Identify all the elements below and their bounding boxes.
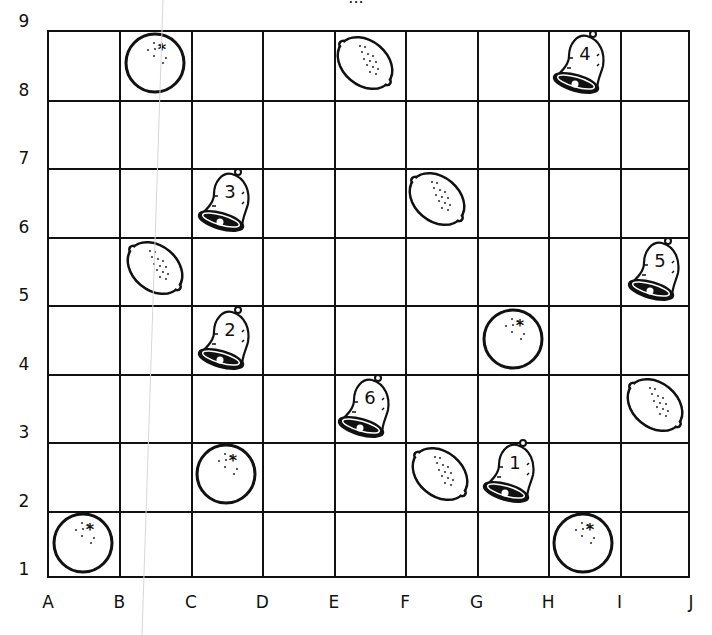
svg-text:*: * xyxy=(229,451,238,470)
bell-4: 4 xyxy=(547,30,613,96)
y-axis-label-4: 4 xyxy=(14,354,34,374)
y-axis-label-1: 1 xyxy=(14,559,34,579)
x-axis-label-g: G xyxy=(462,592,492,612)
bell-icon: 4 xyxy=(547,30,613,96)
page-title: ... xyxy=(0,0,712,7)
orange-g4: * xyxy=(480,306,546,372)
bell-1: 1 xyxy=(477,439,543,505)
orange-icon: * xyxy=(122,30,188,96)
grid-horizontal-line xyxy=(49,305,688,307)
lemon-f6 xyxy=(404,166,470,232)
lemon-e8 xyxy=(332,30,398,96)
bell-icon: 3 xyxy=(192,168,258,234)
svg-text:*: * xyxy=(86,520,95,539)
x-axis-label-f: F xyxy=(390,592,420,612)
orange-icon: * xyxy=(50,510,116,576)
svg-text:2: 2 xyxy=(224,319,235,340)
svg-text:1: 1 xyxy=(509,452,520,473)
bell-icon: 2 xyxy=(192,306,258,372)
bell-3: 3 xyxy=(192,168,258,234)
y-axis-label-3: 3 xyxy=(14,422,34,442)
game-grid xyxy=(47,30,690,578)
bell-icon: 5 xyxy=(622,237,688,303)
lemon-f2 xyxy=(407,441,473,507)
x-axis-label-h: H xyxy=(533,592,563,612)
grid-vertical-line xyxy=(334,32,336,576)
svg-text:*: * xyxy=(158,40,167,59)
lemon-b5 xyxy=(122,235,188,301)
svg-text:3: 3 xyxy=(224,181,235,202)
x-axis-label-c: C xyxy=(176,592,206,612)
orange-icon: * xyxy=(480,306,546,372)
y-axis-label-6: 6 xyxy=(14,217,34,237)
grid-horizontal-line xyxy=(49,100,688,102)
x-axis-label-b: B xyxy=(104,592,134,612)
grid-vertical-line xyxy=(548,32,550,576)
orange-b8: * xyxy=(122,30,188,96)
orange-c2: * xyxy=(193,441,259,507)
lemon-icon xyxy=(407,441,473,507)
bell-icon: 6 xyxy=(332,374,398,440)
orange-a1: * xyxy=(50,510,116,576)
grid-vertical-line xyxy=(620,32,622,576)
bell-2: 2 xyxy=(192,306,258,372)
y-axis-label-9: 9 xyxy=(14,11,34,31)
y-axis-label-7: 7 xyxy=(14,148,34,168)
svg-text:4: 4 xyxy=(579,43,590,64)
lemon-icon xyxy=(404,166,470,232)
lemon-icon xyxy=(332,30,398,96)
y-axis-label-5: 5 xyxy=(14,285,34,305)
x-axis-label-i: I xyxy=(605,592,635,612)
lemon-icon xyxy=(122,235,188,301)
bell-6: 6 xyxy=(332,374,398,440)
x-axis-label-a: A xyxy=(33,592,63,612)
y-axis-label-8: 8 xyxy=(14,80,34,100)
lemon-i3 xyxy=(622,372,688,438)
svg-text:6: 6 xyxy=(364,387,375,408)
y-axis-label-2: 2 xyxy=(14,491,34,511)
svg-text:5: 5 xyxy=(654,250,665,271)
x-axis-label-j: J xyxy=(676,592,706,612)
orange-icon: * xyxy=(550,510,616,576)
bell-icon: 1 xyxy=(477,439,543,505)
grid-horizontal-line xyxy=(49,168,688,170)
grid-horizontal-line xyxy=(49,442,688,444)
x-axis-label-e: E xyxy=(319,592,349,612)
svg-text:*: * xyxy=(586,520,595,539)
bell-5: 5 xyxy=(622,237,688,303)
grid-vertical-line xyxy=(119,32,121,576)
orange-icon: * xyxy=(193,441,259,507)
x-axis-label-d: D xyxy=(247,592,277,612)
lemon-icon xyxy=(622,372,688,438)
grid-vertical-line xyxy=(262,32,264,576)
svg-text:*: * xyxy=(516,316,525,335)
orange-h1: * xyxy=(550,510,616,576)
